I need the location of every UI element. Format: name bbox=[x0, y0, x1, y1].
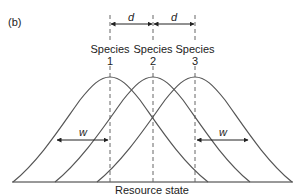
species-labels: Species 1 Species 2 Species 3 bbox=[90, 43, 215, 67]
distance-label-2: d bbox=[171, 11, 178, 23]
niche-overlap-diagram: (b) d d Species 1 Species 2 Species 3 w … bbox=[0, 0, 298, 194]
species-1-label: Species bbox=[90, 43, 130, 55]
species-3-number: 3 bbox=[192, 55, 198, 67]
distance-label-1: d bbox=[128, 11, 135, 23]
species-2-label: Species bbox=[133, 43, 173, 55]
width-label-left: w bbox=[79, 126, 88, 138]
species-3-label: Species bbox=[175, 43, 215, 55]
panel-label: (b) bbox=[8, 16, 21, 28]
species-1-number: 1 bbox=[107, 55, 113, 67]
width-label-right: w bbox=[219, 126, 228, 138]
species-2-number: 2 bbox=[150, 55, 156, 67]
x-axis-label: Resource state bbox=[115, 184, 189, 194]
